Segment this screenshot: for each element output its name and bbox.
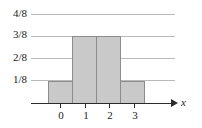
histogram-bar bbox=[48, 81, 73, 103]
x-axis-label: x bbox=[181, 97, 186, 108]
x-axis-tick-3 bbox=[134, 104, 135, 108]
y-axis-tick-label-2-8: 2/8 bbox=[9, 52, 27, 63]
x-axis-tick-label-3: 3 bbox=[127, 110, 143, 121]
y-axis-tick-label-1-8: 1/8 bbox=[9, 74, 27, 85]
x-axis-tick-1 bbox=[85, 104, 86, 108]
histogram-bar bbox=[72, 36, 97, 103]
x-axis-tick-label-2: 2 bbox=[102, 110, 118, 121]
x-axis-tick-label-1: 1 bbox=[78, 110, 94, 121]
histogram-bar bbox=[120, 81, 145, 103]
y-axis-tick-label-4-8: 4/8 bbox=[9, 8, 27, 19]
y-axis-tick-label-3-8: 3/8 bbox=[9, 29, 27, 40]
histogram-bar bbox=[96, 36, 121, 103]
x-axis-tick-0 bbox=[60, 104, 61, 108]
plot-area bbox=[48, 14, 147, 103]
x-axis-tick-2 bbox=[109, 104, 110, 108]
probability-histogram-figure: 4/8 3/8 2/8 1/8 x 0 1 2 3 bbox=[0, 0, 202, 128]
x-axis-line bbox=[31, 103, 173, 104]
x-axis-arrow-icon bbox=[171, 99, 178, 107]
x-axis-tick-label-0: 0 bbox=[53, 110, 69, 121]
